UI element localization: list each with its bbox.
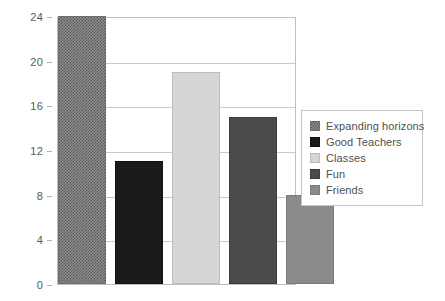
- legend-item[interactable]: Good Teachers: [310, 134, 414, 149]
- y-tick-label: 16: [30, 100, 43, 112]
- legend-item[interactable]: Fun: [310, 166, 414, 181]
- legend-item-label: Classes: [326, 152, 366, 164]
- y-tick-mark: [47, 196, 52, 197]
- bar-fun[interactable]: [229, 117, 277, 285]
- legend-item-label: Friends: [326, 184, 363, 196]
- legend-item-label: Expanding horizons: [326, 120, 424, 132]
- legend-item-label: Fun: [326, 168, 345, 180]
- legend-item[interactable]: Expanding horizons: [310, 118, 414, 133]
- y-tick-mark: [47, 62, 52, 63]
- y-axis: 24 20 16 12 8 4 0: [0, 17, 52, 285]
- y-tick-mark: [47, 285, 52, 286]
- bar-chart: 24 20 16 12 8 4 0: [0, 0, 445, 301]
- y-tick-mark: [47, 106, 52, 107]
- plot-area: [57, 17, 296, 285]
- bar-expanding-horizons[interactable]: [58, 16, 106, 284]
- legend: Expanding horizons Good Teachers Classes…: [301, 110, 423, 206]
- legend-item-label: Good Teachers: [326, 136, 402, 148]
- y-tick-mark: [47, 240, 52, 241]
- legend-swatch-icon: [310, 169, 320, 179]
- legend-item[interactable]: Friends: [310, 182, 414, 197]
- y-tick-mark: [47, 17, 52, 18]
- y-tick-label: 4: [37, 234, 43, 246]
- y-tick-label: 8: [37, 190, 43, 202]
- bars: [58, 18, 295, 284]
- legend-swatch-icon: [310, 153, 320, 163]
- legend-swatch-icon: [310, 121, 320, 131]
- y-tick-label: 20: [30, 56, 43, 68]
- legend-item[interactable]: Classes: [310, 150, 414, 165]
- y-tick-label: 24: [30, 11, 43, 23]
- y-tick-label: 0: [37, 279, 43, 291]
- y-tick-mark: [47, 151, 52, 152]
- bar-good-teachers[interactable]: [115, 161, 163, 284]
- y-tick-label: 12: [30, 145, 43, 157]
- legend-swatch-icon: [310, 185, 320, 195]
- bar-friends[interactable]: [286, 195, 334, 284]
- bar-classes[interactable]: [172, 72, 220, 284]
- legend-swatch-icon: [310, 137, 320, 147]
